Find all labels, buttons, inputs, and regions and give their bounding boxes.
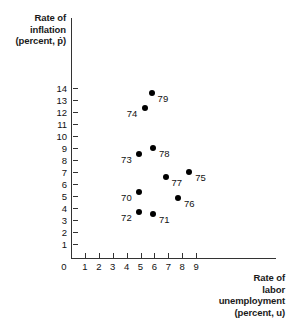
data-point-label-77: 77 [172, 178, 183, 188]
y-tick-label-11: 11 [45, 120, 67, 130]
y-tick-6 [73, 184, 78, 185]
y-tick-13 [73, 100, 78, 101]
y-axis-line [71, 18, 72, 259]
y-tick-label-4: 4 [45, 204, 67, 214]
y-tick-label-13: 13 [45, 96, 67, 106]
y-tick-14 [73, 88, 78, 89]
x-axis-line [71, 258, 276, 259]
x-axis-title-line-1: Rate of [175, 272, 285, 284]
data-point-label-75: 75 [195, 173, 206, 183]
scatter-chart: Rate of inflation (percent, ṗ) Rate of l… [0, 0, 287, 334]
x-tick-1 [85, 253, 86, 258]
y-tick-label-5: 5 [45, 192, 67, 202]
data-point-75 [186, 169, 192, 175]
data-point-label-73: 73 [121, 155, 132, 165]
data-point-76 [175, 195, 181, 201]
x-tick-label-9: 9 [188, 262, 204, 272]
y-tick-label-10: 10 [45, 132, 67, 142]
data-point-label-72: 72 [121, 213, 132, 223]
y-tick-5 [73, 196, 78, 197]
y-tick-9 [73, 148, 78, 149]
y-tick-label-2: 2 [45, 228, 67, 238]
x-tick-2 [99, 253, 100, 258]
y-tick-label-1: 1 [45, 240, 67, 250]
y-tick-label-3: 3 [45, 216, 67, 226]
y-tick-10 [73, 136, 78, 137]
y-tick-12 [73, 112, 78, 113]
y-axis-title-line-2: inflation [0, 24, 66, 36]
y-tick-8 [73, 160, 78, 161]
data-point-78 [150, 145, 156, 151]
x-tick-4 [127, 253, 128, 258]
data-point-73 [136, 151, 142, 157]
y-axis-title: Rate of inflation (percent, ṗ) [0, 12, 66, 47]
data-point-70 [136, 189, 142, 195]
data-point-74 [142, 105, 148, 111]
data-point-label-76: 76 [184, 199, 195, 209]
y-tick-7 [73, 172, 78, 173]
y-tick-1 [73, 244, 78, 245]
data-point-label-71: 71 [159, 215, 170, 225]
y-tick-label-12: 12 [45, 108, 67, 118]
y-tick-label-8: 8 [45, 156, 67, 166]
y-tick-2 [73, 232, 78, 233]
x-axis-title-line-3: unemployment [175, 295, 285, 307]
x-tick-6 [154, 253, 155, 258]
x-tick-3 [113, 253, 114, 258]
x-tick-5 [141, 253, 142, 258]
y-tick-3 [73, 220, 78, 221]
x-axis-title-line-2: labor [175, 284, 285, 296]
data-point-71 [150, 211, 156, 217]
data-point-label-70: 70 [121, 193, 132, 203]
data-point-label-79: 79 [158, 94, 169, 104]
y-axis-title-line-3: (percent, ṗ) [0, 35, 66, 47]
y-tick-label-14: 14 [45, 84, 67, 94]
y-tick-label-9: 9 [45, 144, 67, 154]
data-point-label-74: 74 [127, 109, 138, 119]
data-point-72 [136, 209, 142, 215]
x-axis-title-line-4: (percent, u) [175, 307, 285, 319]
y-tick-11 [73, 124, 78, 125]
data-point-77 [163, 174, 169, 180]
data-point-79 [149, 90, 155, 96]
x-tick-9 [196, 253, 197, 258]
x-axis-title: Rate of labor unemployment (percent, u) [175, 272, 285, 318]
y-axis-title-line-1: Rate of [0, 12, 66, 24]
y-tick-label-7: 7 [45, 168, 67, 178]
y-tick-label-6: 6 [45, 180, 67, 190]
data-point-label-78: 78 [159, 149, 170, 159]
x-tick-7 [168, 253, 169, 258]
y-tick-4 [73, 208, 78, 209]
x-tick-8 [182, 253, 183, 258]
x-tick-label-0: 0 [56, 262, 72, 272]
